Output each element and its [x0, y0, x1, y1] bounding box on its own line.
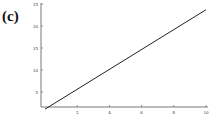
x-tick-label: 2 [76, 110, 79, 115]
x-tick-label: 4 [108, 110, 111, 115]
y-tick-label: 5 [35, 90, 38, 95]
y-tick-label: 20 [33, 24, 39, 29]
line-chart: 510152025 246810 [0, 0, 209, 120]
x-tick-label: 8 [173, 110, 176, 115]
x-tick-label: 10 [203, 110, 209, 115]
y-tick-label: 25 [33, 2, 39, 7]
x-ticks: 246810 [76, 105, 209, 115]
y-ticks: 510152025 [33, 2, 43, 95]
y-tick-label: 15 [33, 46, 39, 51]
x-tick-label: 6 [140, 110, 143, 115]
y-tick-label: 10 [33, 68, 39, 73]
data-line [45, 10, 206, 109]
